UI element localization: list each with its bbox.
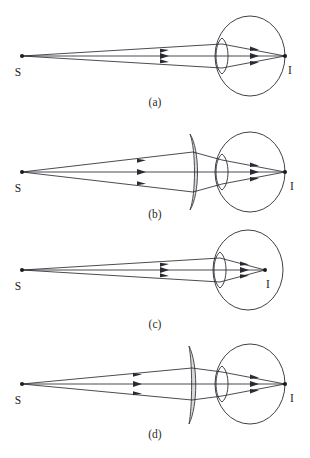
source-point-c	[20, 268, 24, 272]
source-point-b	[20, 170, 24, 174]
source-label-d: S	[15, 394, 21, 406]
caption-c: (c)	[0, 318, 310, 330]
arrowhead-middle-in-a	[160, 53, 169, 59]
image-label-b: I	[290, 180, 294, 192]
arrowhead-lower-out-a	[250, 61, 259, 66]
arrowhead-lower-out-b	[250, 177, 259, 182]
ray-lower-a	[22, 56, 285, 68]
caption-b: (b)	[0, 208, 310, 220]
arrowhead-upper-out-a	[250, 47, 259, 52]
image-point-c	[263, 268, 267, 272]
arrowhead-upper-out-d	[250, 375, 259, 380]
ray-upper-b	[22, 152, 285, 172]
ray-upper-c	[22, 258, 265, 270]
arrowhead-upper-in-c	[160, 263, 169, 267]
image-point-a	[283, 54, 287, 58]
figure-sheet: S I (a) S	[0, 0, 310, 458]
image-label-a: I	[288, 64, 292, 76]
arrowhead-lower-in-c	[160, 273, 169, 277]
source-label-b: S	[15, 182, 21, 194]
arrowhead-upper-in-a	[160, 49, 169, 53]
caption-a: (a)	[0, 96, 310, 108]
ray-upper-d	[22, 368, 285, 384]
arrowhead-lower-out-d	[250, 389, 259, 394]
arrowhead-middle-out-c	[240, 267, 249, 273]
ray-lower-b	[22, 172, 285, 192]
image-point-b	[283, 170, 287, 174]
arrowhead-lower-in-a	[160, 59, 169, 63]
arrowhead-lower-in-b	[137, 181, 146, 185]
source-point-d	[20, 382, 24, 386]
caption-d: (d)	[0, 428, 310, 440]
arrowhead-upper-out-b	[250, 163, 259, 168]
source-label-c: S	[15, 280, 21, 292]
ray-upper-a	[22, 44, 285, 56]
arrowhead-middle-in-c	[160, 267, 169, 273]
image-label-c: I	[266, 278, 270, 290]
arrowhead-middle-in-d	[133, 381, 142, 387]
image-point-d	[283, 382, 287, 386]
arrowhead-middle-in-b	[137, 169, 146, 175]
source-point-a	[20, 54, 24, 58]
image-label-d: I	[290, 392, 294, 404]
ray-lower-c	[22, 270, 265, 282]
arrowhead-middle-out-a	[250, 53, 259, 59]
source-label-a: S	[15, 66, 21, 78]
ray-lower-d	[22, 384, 285, 400]
arrowhead-middle-out-b	[250, 169, 259, 175]
arrowhead-upper-in-b	[137, 159, 146, 163]
arrowhead-middle-out-d	[250, 381, 259, 387]
corrective-lens-diverging-d	[189, 346, 196, 424]
